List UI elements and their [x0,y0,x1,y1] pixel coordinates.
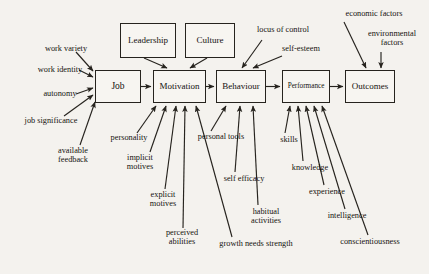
arrow-available-feedback-to-job [80,102,95,145]
arrow-implicit-motives-to-motivation [150,106,166,152]
arrow-locus-of-control-to-behaviour [242,40,262,68]
arrow-experience-to-performance [306,106,324,185]
label-conscientiousness: conscientiousness [325,238,415,247]
label-knowledge: knowledge [281,164,339,173]
arrow-perceived-abilities-to-motivation [183,106,185,228]
arrow-knowledge-to-performance [298,106,303,161]
label-personality: personality [98,134,160,143]
box-culture: Culture [185,23,235,58]
arrow-leadership-to-motivation [144,58,167,68]
label-perceived-abilities: perceived abilities [153,229,211,247]
arrow-culture-to-motivation [190,58,207,68]
box-leadership: Leadership [120,23,176,58]
label-autonomy: autonomy [30,90,90,99]
label-work-identity: work identity [22,66,98,75]
label-habitual-activities: habitual activities [241,208,291,226]
box-outcomes: Outcomes [345,70,395,103]
label-job-significance: job significance [24,117,78,126]
label-growth-needs-strength: growth needs strength [206,240,306,249]
label-locus-of-control: locus of control [246,26,320,35]
label-implicit-motives: implicit motives [116,154,164,172]
diagram-canvas: LeadershipCultureJobMotivationBehaviourP… [0,0,429,274]
arrow-skills-to-performance [285,106,290,133]
arrow-personal-tools-to-behaviour [211,106,226,131]
box-job: Job [95,70,141,103]
arrow-habitual-activities-to-behaviour [253,106,258,205]
label-experience: experience [297,188,357,197]
box-motivation: Motivation [153,70,206,103]
label-self-esteem: self-esteem [272,45,330,54]
label-work-variety: work variety [29,45,103,54]
label-self-efficacy: self efficacy [221,175,267,184]
label-available-feedback: available feedback [45,147,101,165]
label-intelligence: intelligence [317,212,377,221]
arrow-explicit-motives-to-motivation [165,106,176,189]
box-performance: Performance [282,70,330,103]
label-personal-tools: personal tools [197,133,245,142]
label-environmental-factors: environmental factors [360,30,424,48]
label-economic-factors: economic factors [333,10,415,19]
box-behaviour: Behaviour [216,70,266,103]
arrow-self-esteem-to-behaviour [253,56,282,68]
label-skills: skills [272,136,306,145]
label-explicit-motives: explicit motives [139,191,187,209]
arrow-personality-to-motivation [137,106,156,133]
